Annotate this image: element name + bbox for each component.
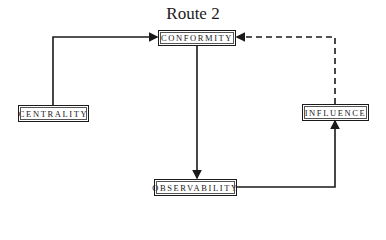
node-centrality: CENTRALITY bbox=[18, 105, 89, 122]
node-influence: INFLUENCE bbox=[302, 104, 369, 121]
node-conformity: CONFORMITY bbox=[158, 30, 236, 46]
edge-observability-influence bbox=[237, 121, 335, 187]
node-observability: OBSERVABILITY bbox=[154, 179, 237, 196]
edge-centrality-conformity bbox=[53, 37, 157, 105]
edge-influence-conformity-dashed bbox=[237, 37, 335, 104]
